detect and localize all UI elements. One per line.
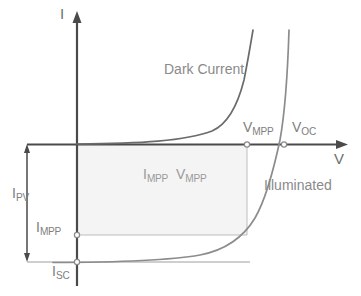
mpp-product-voltage-main: V xyxy=(176,166,185,182)
ipv-label-sub: PV xyxy=(16,192,29,203)
y-axis-arrowhead xyxy=(73,11,82,23)
ipv-label: IPV xyxy=(12,186,29,200)
isc-marker-dot xyxy=(74,259,79,264)
dark-current-label: Dark Current xyxy=(164,62,244,76)
x-axis-label: V xyxy=(334,151,344,166)
impp-axis-label-sub: MPP xyxy=(40,226,61,237)
chart-canvas xyxy=(0,0,361,296)
voc-marker-dot xyxy=(281,142,286,147)
isc-axis-label: ISC xyxy=(52,264,70,278)
mpp-product-voltage-sub: MPP xyxy=(185,173,206,184)
mpp-rectangle-fill xyxy=(77,144,247,235)
voc-axis-label-main: V xyxy=(292,119,301,135)
mpp-product-label: IMPP VMPP xyxy=(143,167,207,181)
voc-axis-label-sub: OC xyxy=(301,126,316,137)
isc-axis-label-sub: SC xyxy=(56,270,70,281)
mpp-product-current-sub: MPP xyxy=(147,173,168,184)
vmpp-marker-dot xyxy=(244,142,249,147)
vmpp-axis-label: VMPP xyxy=(243,120,274,134)
x-axis-arrowhead xyxy=(336,140,348,149)
dark-current-curve xyxy=(77,30,253,144)
voc-axis-label: VOC xyxy=(292,120,316,134)
mpp-product-spacer xyxy=(168,166,176,182)
y-axis-label: I xyxy=(60,6,64,21)
vmpp-axis-label-main: V xyxy=(243,119,252,135)
vmpp-axis-label-sub: MPP xyxy=(252,126,273,137)
ipv-dimension-arrow xyxy=(24,144,30,262)
impp-marker-dot xyxy=(74,232,79,237)
impp-axis-label: IMPP xyxy=(36,220,61,234)
illuminated-label: Illuminated xyxy=(264,178,332,192)
iv-characteristic-figure: I V Dark Current Illuminated VMPP VOC IP… xyxy=(0,0,361,296)
